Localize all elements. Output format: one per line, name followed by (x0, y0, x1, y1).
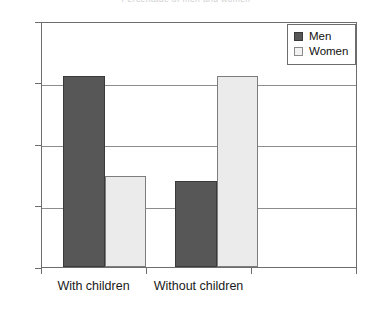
x-category-label-without-children: Without children (146, 279, 251, 293)
plot-area: Men Women (41, 22, 357, 268)
legend-label-men: Men (309, 31, 331, 43)
bar-chart: Percentage of men and women 80 60 40 20 … (0, 0, 372, 313)
bar-men-with-children[interactable] (63, 76, 105, 267)
x-tick-mark-2 (251, 268, 252, 274)
legend-item-men[interactable]: Men (294, 29, 350, 44)
chart-legend: Men Women (287, 24, 356, 65)
bar-men-without-children[interactable] (175, 181, 217, 267)
x-category-label-with-children: With children (41, 279, 146, 293)
legend-swatch-men-icon (294, 32, 303, 41)
chart-title: Percentage of men and women (0, 0, 372, 2)
x-tick-mark-3 (356, 268, 357, 274)
legend-label-women: Women (309, 46, 348, 58)
bar-women-with-children[interactable] (105, 176, 146, 267)
legend-item-women[interactable]: Women (294, 44, 350, 59)
x-tick-mark-0 (41, 268, 42, 274)
bar-women-without-children[interactable] (217, 76, 258, 267)
legend-swatch-women-icon (294, 47, 303, 56)
x-tick-mark-1 (146, 268, 147, 274)
